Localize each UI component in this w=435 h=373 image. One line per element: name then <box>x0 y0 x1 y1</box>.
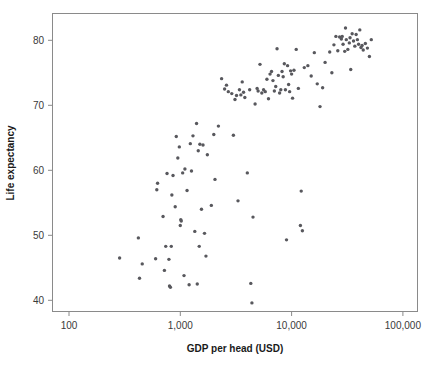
data-point <box>246 171 249 174</box>
data-point <box>176 156 179 159</box>
data-point <box>251 215 254 218</box>
data-point <box>233 98 236 101</box>
data-point <box>182 274 185 277</box>
data-point <box>280 70 283 73</box>
data-point <box>191 134 194 137</box>
data-point <box>241 80 244 83</box>
data-point <box>350 32 353 35</box>
data-point <box>345 38 348 41</box>
data-point <box>175 135 178 138</box>
data-point <box>357 43 360 46</box>
data-point <box>212 133 215 136</box>
data-point <box>346 48 349 51</box>
data-point <box>264 90 267 93</box>
data-point <box>155 188 158 191</box>
data-point <box>267 97 270 100</box>
data-point <box>183 167 186 170</box>
data-point <box>336 49 339 52</box>
data-point <box>163 269 166 272</box>
data-point <box>187 283 190 286</box>
data-point <box>227 90 230 93</box>
data-point <box>195 122 198 125</box>
data-point <box>310 74 313 77</box>
data-point <box>278 91 281 94</box>
data-point <box>332 43 335 46</box>
data-point <box>239 93 242 96</box>
data-point <box>368 55 371 58</box>
data-point <box>225 83 228 86</box>
data-point <box>213 178 216 181</box>
data-point <box>161 215 164 218</box>
data-point <box>256 89 259 92</box>
data-point <box>170 193 173 196</box>
data-point <box>364 42 367 45</box>
data-point <box>238 88 241 91</box>
data-point <box>356 38 359 41</box>
x-axis-title: GDP per head (USD) <box>187 343 284 354</box>
data-point-group <box>118 26 373 304</box>
data-point <box>185 189 188 192</box>
data-point <box>360 44 363 47</box>
data-point <box>164 245 167 248</box>
data-point <box>223 87 226 90</box>
y-tick-label: 80 <box>33 35 45 46</box>
data-point <box>290 72 293 75</box>
data-point <box>171 174 174 177</box>
data-point <box>362 48 365 51</box>
data-point <box>285 238 288 241</box>
y-tick-label: 40 <box>33 295 45 306</box>
data-point <box>306 64 309 67</box>
data-point <box>300 189 303 192</box>
data-point <box>358 28 361 31</box>
data-point <box>203 232 206 235</box>
data-point <box>189 142 192 145</box>
data-point <box>197 149 200 152</box>
y-tick-label: 70 <box>33 100 45 111</box>
data-point <box>200 208 203 211</box>
data-point <box>165 172 168 175</box>
data-point <box>348 36 351 39</box>
data-point <box>118 256 121 259</box>
data-point <box>204 254 207 257</box>
data-point <box>283 62 286 65</box>
data-point <box>258 63 261 66</box>
data-point <box>138 277 141 280</box>
data-point <box>249 282 252 285</box>
data-point <box>265 78 268 81</box>
data-point <box>291 96 294 99</box>
data-point <box>366 46 369 49</box>
data-point <box>217 124 220 127</box>
plot-frame <box>53 14 418 312</box>
data-point <box>242 91 245 94</box>
data-point <box>344 26 347 29</box>
data-point <box>235 94 238 97</box>
data-point <box>313 51 316 54</box>
data-point <box>297 87 300 90</box>
plot-canvas: 4050607080 1001,00010,000100,000 GDP per… <box>0 0 435 373</box>
data-point <box>292 69 295 72</box>
data-point <box>352 39 355 42</box>
data-point <box>354 33 357 36</box>
data-point <box>260 91 263 94</box>
data-point <box>198 245 201 248</box>
data-point <box>295 48 298 51</box>
data-point <box>287 83 290 86</box>
data-point <box>196 282 199 285</box>
y-axis-ticks: 4050607080 <box>33 35 52 306</box>
data-point <box>179 224 182 227</box>
data-point <box>198 143 201 146</box>
data-point <box>137 236 140 239</box>
data-point <box>341 35 344 38</box>
data-point <box>275 47 278 50</box>
data-point <box>248 88 251 91</box>
data-point <box>206 153 209 156</box>
data-point <box>316 82 319 85</box>
x-axis-ticks: 1001,00010,000100,000 <box>61 312 422 331</box>
data-point <box>243 96 246 99</box>
data-point <box>289 69 292 72</box>
data-point <box>253 102 256 105</box>
data-point <box>349 68 352 71</box>
data-point <box>156 182 159 185</box>
y-axis-title: Life expectancy <box>5 125 16 200</box>
data-point <box>180 219 183 222</box>
